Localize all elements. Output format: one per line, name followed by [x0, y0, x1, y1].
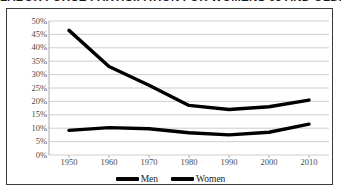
y-tick-label: 30%	[13, 70, 47, 79]
y-tick-label: 5%	[13, 137, 47, 146]
series-line-men	[69, 30, 309, 109]
y-tick-label: 45%	[13, 30, 47, 39]
legend-label: Women	[196, 174, 225, 184]
chart-frame: 50%45%40%35%30%25%20%15%10%5%0% 19501960…	[6, 8, 333, 185]
x-tick-label: 1950	[49, 157, 89, 168]
y-tick-label: 20%	[13, 97, 47, 106]
y-tick-label: 35%	[13, 57, 47, 66]
y-tick-label: 0%	[13, 151, 47, 160]
legend-item-men[interactable]: Men	[116, 174, 158, 184]
legend-swatch-icon	[171, 177, 194, 181]
x-tick-label: 1990	[209, 157, 249, 168]
y-axis-labels: 50%45%40%35%30%25%20%15%10%5%0%	[9, 9, 47, 186]
y-tick-label: 50%	[13, 17, 47, 26]
y-tick-label: 15%	[13, 110, 47, 119]
y-tick-label: 10%	[13, 124, 47, 133]
y-tick-label: 40%	[13, 43, 47, 52]
y-tick-label: 25%	[13, 84, 47, 93]
x-tick-label: 1960	[89, 157, 129, 168]
x-tick-label: 1970	[129, 157, 169, 168]
chart-legend: MenWomen	[7, 171, 334, 186]
x-tick-label: 2000	[249, 157, 289, 168]
plot-area: 50%45%40%35%30%25%20%15%10%5%0% 19501960…	[7, 9, 334, 186]
x-tick-label: 2010	[289, 157, 329, 168]
legend-label: Men	[141, 174, 158, 184]
x-tick-label: 1980	[169, 157, 209, 168]
series-line-women	[69, 124, 309, 135]
chart-title: LABOR FORCE PARTICIPATION FOR WOMENS 65 …	[0, 0, 341, 3]
legend-item-women[interactable]: Women	[171, 174, 225, 184]
legend-swatch-icon	[116, 177, 139, 181]
